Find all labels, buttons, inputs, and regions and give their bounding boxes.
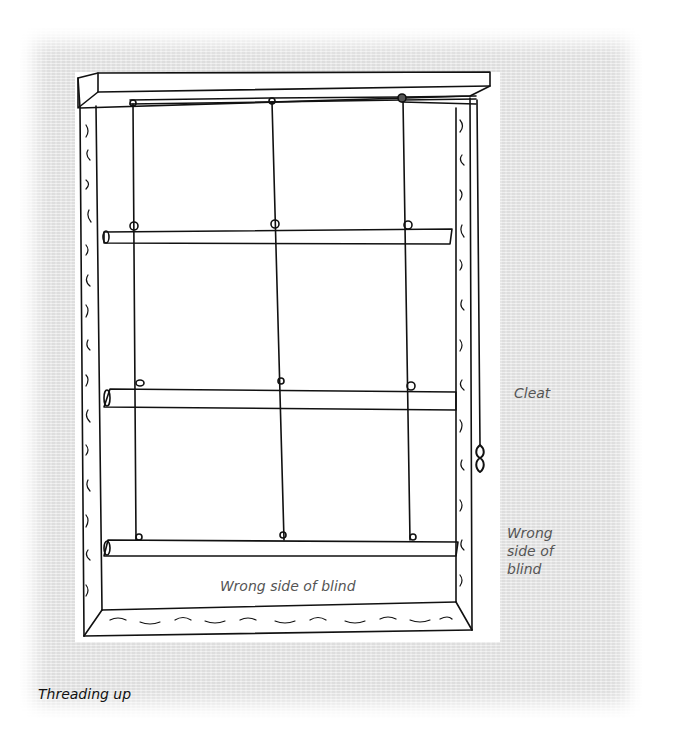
top-rail-cords xyxy=(130,96,476,104)
blind-threading-illustration xyxy=(0,0,673,755)
label-wrong-side-center: Wrong side of blind xyxy=(220,577,356,595)
cleat xyxy=(476,445,484,472)
pull-cord xyxy=(477,100,480,445)
label-wrong-side-right-3: blind xyxy=(507,560,541,578)
figure-caption: Threading up xyxy=(38,686,131,702)
label-wrong-side-right-2: side of xyxy=(507,542,554,560)
cords xyxy=(133,100,480,540)
label-cleat: Cleat xyxy=(514,384,550,402)
label-wrong-side-right-1: Wrong xyxy=(507,524,553,542)
